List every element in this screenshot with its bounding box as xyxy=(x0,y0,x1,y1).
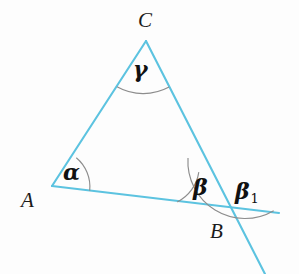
angle-label-beta-1-glyph: β xyxy=(235,178,250,204)
vertex-label-C: C xyxy=(138,10,152,31)
vertex-label-A: A xyxy=(21,190,34,211)
figure-canvas xyxy=(0,0,299,274)
geometry-figure: C A B γ α β β1 xyxy=(0,0,299,274)
angle-label-alpha: α xyxy=(63,161,80,183)
segment-CB-extended xyxy=(146,41,265,274)
angle-label-beta-1: β1 xyxy=(235,180,259,205)
angle-label-beta: β xyxy=(193,176,208,198)
angle-label-beta-1-subscript: 1 xyxy=(250,191,259,206)
angle-arc-gamma xyxy=(117,87,169,94)
vertex-label-B: B xyxy=(210,221,223,242)
angle-label-gamma: γ xyxy=(133,58,148,80)
